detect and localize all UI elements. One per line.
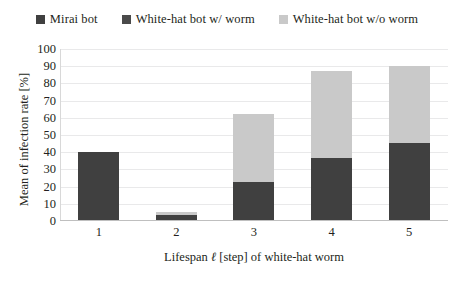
x-axis-line bbox=[60, 220, 448, 221]
bar-group bbox=[370, 49, 448, 220]
square-swatch-icon bbox=[279, 15, 288, 24]
bar-group bbox=[138, 49, 216, 220]
x-axis-tick-labels: 1 2 3 4 5 bbox=[60, 226, 448, 239]
y-axis-tick: 60 bbox=[44, 112, 57, 125]
x-axis-tick: 5 bbox=[370, 226, 448, 239]
plot-area bbox=[60, 49, 448, 221]
bar-series-container bbox=[60, 49, 448, 220]
bar-stack bbox=[78, 152, 119, 220]
y-axis-tick: 20 bbox=[44, 180, 57, 193]
bar-group bbox=[60, 49, 138, 220]
x-axis-label-prefix: Lifespan bbox=[164, 250, 211, 264]
y-axis-tick: 100 bbox=[37, 43, 56, 56]
bar-segment bbox=[389, 66, 430, 143]
legend-entry-mirai-bot: Mirai bot bbox=[36, 13, 98, 26]
y-axis-tick: 40 bbox=[44, 146, 57, 159]
y-axis-tick: 0 bbox=[50, 215, 56, 228]
bar-segment bbox=[389, 143, 430, 220]
bar-stack bbox=[311, 71, 352, 220]
bar-segment bbox=[233, 182, 274, 220]
bar-group bbox=[215, 49, 293, 220]
y-axis-tick: 90 bbox=[44, 60, 57, 73]
x-axis-tick: 4 bbox=[293, 226, 371, 239]
chart-plot-wrapper: Mean of infection rate [%] 100 90 80 70 … bbox=[0, 36, 454, 284]
y-axis-tick: 80 bbox=[44, 77, 57, 90]
x-axis-label-suffix: [step] of white-hat worm bbox=[216, 250, 344, 264]
x-axis-label: Lifespan ℓ [step] of white-hat worm bbox=[60, 250, 448, 265]
bar-group bbox=[293, 49, 371, 220]
bar-segment bbox=[156, 215, 197, 220]
bar-segment bbox=[78, 152, 119, 220]
y-axis-tick: 30 bbox=[44, 163, 57, 176]
y-axis-tick: 10 bbox=[44, 198, 57, 211]
y-axis-tick-labels: 100 90 80 70 60 50 40 30 20 10 0 bbox=[30, 36, 56, 228]
legend-label: White-hat bot w/o worm bbox=[293, 13, 418, 26]
bar-segment bbox=[311, 158, 352, 220]
x-axis-tick: 3 bbox=[215, 226, 293, 239]
y-axis-tick: 70 bbox=[44, 94, 57, 107]
bar-segment bbox=[233, 114, 274, 182]
legend-entry-white-hat-bot-with-worm: White-hat bot w/ worm bbox=[122, 13, 255, 26]
bar-stack bbox=[156, 212, 197, 220]
legend-label: Mirai bot bbox=[50, 13, 98, 26]
square-swatch-icon bbox=[122, 15, 131, 24]
legend-entry-white-hat-bot-without-worm: White-hat bot w/o worm bbox=[279, 13, 418, 26]
legend-label: White-hat bot w/ worm bbox=[136, 13, 255, 26]
bar-segment bbox=[311, 71, 352, 158]
x-axis-tick: 2 bbox=[138, 226, 216, 239]
bar-stack bbox=[389, 66, 430, 220]
square-swatch-icon bbox=[36, 15, 45, 24]
chart-legend: Mirai bot White-hat bot w/ worm White-ha… bbox=[0, 8, 454, 30]
x-axis-tick: 1 bbox=[60, 226, 138, 239]
bar-stack bbox=[233, 114, 274, 220]
y-axis-tick: 50 bbox=[44, 129, 57, 142]
